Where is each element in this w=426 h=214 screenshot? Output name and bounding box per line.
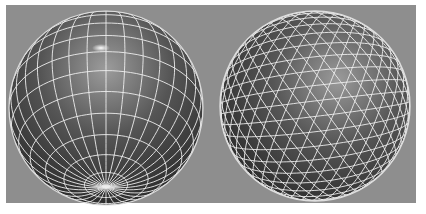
pole-highlight (92, 44, 110, 52)
uv-sphere (9, 11, 203, 205)
geodesic-sphere (220, 11, 410, 201)
spheres-canvas (0, 0, 426, 214)
